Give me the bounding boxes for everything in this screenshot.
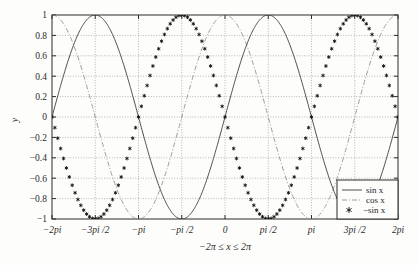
x-axis-title: −2π ≤ x ≤ 2π xyxy=(199,241,252,252)
legend-label-neg-sin-x: −sin x xyxy=(363,205,386,215)
x-tick-label: −pi /2 xyxy=(170,225,194,235)
y-tick-label: −0.2 xyxy=(30,133,47,143)
x-tick-labels: −2pi−3pi /2−pi−pi /20pi /2pi3pi /22pi xyxy=(43,225,405,235)
legend-label-sin-x: sin x xyxy=(366,185,384,195)
y-tick-label: 0.6 xyxy=(35,51,47,61)
x-tick-label: −2pi xyxy=(43,225,62,235)
x-tick-label: −3pi /2 xyxy=(81,225,110,235)
y-tick-label: 0.4 xyxy=(35,72,47,82)
figure-container: −1−0.8−0.6−0.4−0.200.20.40.60.81 −2pi−3p… xyxy=(0,0,418,265)
legend-label-cos-x: cos x xyxy=(366,195,385,205)
y-tick-label: −0.4 xyxy=(30,153,47,163)
x-tick-label: −pi xyxy=(132,225,146,235)
y-tick-label: 0 xyxy=(42,112,47,122)
chart-canvas: −1−0.8−0.6−0.4−0.200.20.40.60.81 −2pi−3p… xyxy=(0,0,418,265)
x-tick-label: 0 xyxy=(223,225,228,235)
y-tick-label: 0.2 xyxy=(35,92,47,102)
y-tick-label: 1 xyxy=(42,10,47,20)
y-tick-label: 0.8 xyxy=(35,31,47,41)
legend[interactable]: sin x cos x −sin x xyxy=(337,180,398,219)
x-tick-label: pi xyxy=(307,225,316,235)
y-tick-label: −1 xyxy=(37,214,47,224)
x-tick-label: pi /2 xyxy=(259,225,277,235)
y-axis-title: y xyxy=(9,117,20,123)
x-tick-label: 2pi xyxy=(392,225,405,235)
y-tick-label: −0.6 xyxy=(30,174,47,184)
y-tick-label: −0.8 xyxy=(30,194,47,204)
x-tick-label: 3pi /2 xyxy=(343,225,366,235)
